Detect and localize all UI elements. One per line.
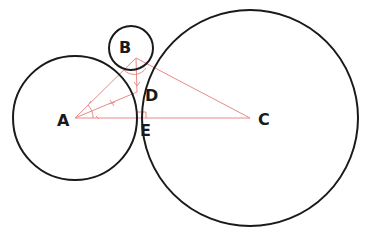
label-C: C [258,110,270,129]
line-AB [75,58,136,118]
construction-lines [75,58,250,119]
line-AD [75,92,137,118]
line-BD [136,58,137,92]
label-B: B [119,38,131,57]
label-E: E [140,121,151,140]
tangent-circles-diagram: A B C D E [0,0,377,238]
label-A: A [57,111,70,130]
label-D: D [145,86,158,105]
